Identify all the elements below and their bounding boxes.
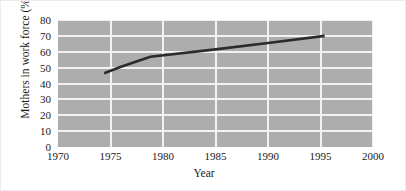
x-tick-1990: 1990 bbox=[245, 150, 291, 162]
y-tick-30: 30 bbox=[11, 94, 51, 105]
y-tick-70: 70 bbox=[11, 31, 51, 42]
y-tick-40: 40 bbox=[11, 79, 51, 90]
x-tick-1975: 1975 bbox=[88, 150, 134, 162]
x-tick-1980: 1980 bbox=[140, 150, 186, 162]
plot-area bbox=[58, 20, 373, 147]
x-tick-1995: 1995 bbox=[298, 150, 344, 162]
y-axis-title: Mothers in work force (%) bbox=[19, 0, 31, 127]
y-tick-50: 50 bbox=[11, 63, 51, 74]
x-axis-title: Year bbox=[1, 167, 406, 179]
y-tick-20: 20 bbox=[11, 110, 51, 121]
x-tick-1970: 1970 bbox=[35, 150, 81, 162]
series-polyline bbox=[104, 36, 325, 73]
line-series bbox=[58, 20, 373, 147]
x-tick-1985: 1985 bbox=[193, 150, 239, 162]
y-tick-60: 60 bbox=[11, 47, 51, 58]
y-tick-10: 10 bbox=[11, 126, 51, 137]
x-tick-2000: 2000 bbox=[350, 150, 396, 162]
y-tick-80: 80 bbox=[11, 15, 51, 26]
chart-figure: 01020304050607080 Mothers in work force … bbox=[0, 0, 406, 191]
